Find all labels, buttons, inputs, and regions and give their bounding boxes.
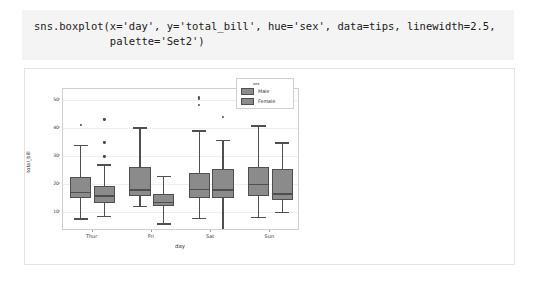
- whisker-cap: [251, 217, 265, 218]
- whisker-cap: [251, 125, 265, 126]
- x-tick-label: Sat: [190, 233, 230, 239]
- legend-swatch: [241, 98, 254, 105]
- legend-title: sex: [253, 81, 260, 86]
- whisker-cap: [157, 176, 171, 177]
- median-line: [212, 189, 233, 190]
- y-tick-label: 50: [39, 97, 59, 102]
- whisker-line: [139, 196, 140, 205]
- whisker-cap: [133, 127, 147, 128]
- median-line: [129, 189, 150, 190]
- x-tick-mark: [151, 230, 152, 232]
- box-body: [248, 167, 269, 197]
- whisker-line: [222, 198, 223, 230]
- median-line: [189, 189, 210, 190]
- whisker-line: [258, 196, 259, 217]
- y-tick-label: 30: [39, 152, 59, 157]
- notebook-output-page: sns.boxplot(x='day', y='total_bill', hue…: [0, 0, 535, 293]
- whisker-line: [139, 127, 140, 167]
- outlier-point: [222, 116, 224, 118]
- whisker-cap: [157, 223, 171, 224]
- box-body: [189, 173, 210, 198]
- x-tick-mark: [210, 230, 211, 232]
- box-body: [129, 167, 150, 197]
- legend-label: Male: [258, 89, 269, 94]
- gridline: [63, 128, 298, 129]
- y-tick-mark: [58, 99, 60, 100]
- whisker-cap: [275, 142, 289, 143]
- whisker-line: [258, 125, 259, 167]
- whisker-line: [80, 145, 81, 177]
- whisker-line: [104, 164, 105, 186]
- gridline: [63, 156, 298, 157]
- x-tick-label: Sun: [249, 233, 289, 239]
- whisker-cap: [216, 140, 230, 141]
- box-body: [212, 169, 233, 198]
- median-line: [248, 184, 269, 185]
- whisker-cap: [275, 212, 289, 213]
- y-tick-mark: [58, 182, 60, 183]
- legend-label: Female: [258, 99, 275, 104]
- x-tick-label: Fri: [131, 233, 171, 239]
- y-tick-mark: [58, 210, 60, 211]
- whisker-cap: [97, 164, 111, 165]
- y-tick-mark: [58, 126, 60, 127]
- whisker-cap: [74, 218, 88, 219]
- whisker-line: [199, 130, 200, 172]
- output-cell: 1020304050 total_bill ThurFriSatSun day …: [24, 68, 515, 265]
- outlier-point: [198, 104, 200, 106]
- outlier-point: [103, 155, 105, 157]
- whisker-line: [163, 176, 164, 194]
- code-cell[interactable]: sns.boxplot(x='day', y='total_bill', hue…: [22, 10, 514, 60]
- median-line: [70, 192, 91, 193]
- y-axis-label: total_bill: [25, 151, 31, 172]
- whisker-cap: [192, 218, 206, 219]
- y-tick-label: 40: [39, 124, 59, 129]
- gridline: [63, 212, 298, 213]
- median-line: [153, 202, 174, 203]
- whisker-cap: [97, 216, 111, 217]
- whisker-cap: [192, 130, 206, 131]
- box-body: [70, 177, 91, 198]
- whisker-line: [80, 198, 81, 219]
- y-tick-mark: [58, 154, 60, 155]
- box-body: [153, 194, 174, 207]
- outlier-point: [80, 124, 82, 126]
- matplotlib-figure: 1020304050 total_bill ThurFriSatSun day …: [31, 75, 321, 260]
- chart-legend: sex MaleFemale: [236, 78, 294, 109]
- whisker-cap: [133, 206, 147, 207]
- plot-area: [62, 88, 299, 230]
- whisker-line: [163, 206, 164, 223]
- x-tick-mark: [92, 230, 93, 232]
- whisker-line: [222, 140, 223, 169]
- whisker-line: [282, 142, 283, 168]
- median-line: [94, 195, 115, 196]
- whisker-line: [199, 198, 200, 218]
- whisker-cap: [74, 145, 88, 146]
- code-source-text: sns.boxplot(x='day', y='total_bill', hue…: [34, 19, 495, 49]
- y-tick-label: 10: [39, 208, 59, 213]
- y-tick-label: 20: [39, 180, 59, 185]
- legend-swatch: [241, 88, 254, 95]
- whisker-line: [104, 203, 105, 216]
- x-tick-mark: [269, 230, 270, 232]
- x-axis-label: day: [175, 243, 185, 249]
- box-body: [272, 169, 293, 201]
- x-tick-label: Thur: [72, 233, 112, 239]
- median-line: [272, 193, 293, 194]
- outlier-point: [103, 118, 105, 120]
- outlier-point: [103, 141, 105, 143]
- y-axis: 1020304050: [31, 88, 59, 230]
- whisker-line: [282, 200, 283, 212]
